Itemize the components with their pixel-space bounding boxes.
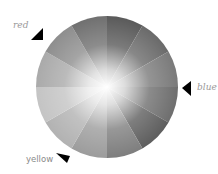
blue-arrow-icon (182, 81, 191, 96)
label-blue: blue (197, 82, 217, 92)
label-yellow: yellow (26, 154, 53, 164)
color-wheel (0, 0, 218, 174)
wheel-center-glow (36, 16, 178, 158)
red-arrow-icon (31, 28, 43, 40)
yellow-arrow-icon (56, 153, 70, 163)
label-red: red (13, 20, 28, 30)
